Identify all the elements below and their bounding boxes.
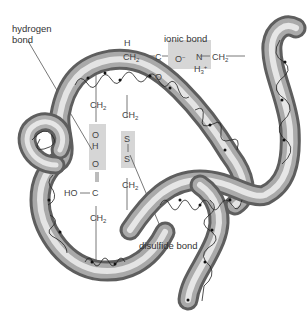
chem-ionic-n: N [196,52,203,62]
chem-top-c: C [155,52,162,62]
chem-hbond-h: H [92,141,99,151]
chem-top-o: O [155,72,162,82]
chem-top-h: H [124,38,131,48]
chem-hbond-ch2: CH2 [90,100,106,113]
chem-ss-s1: S [124,134,130,144]
disulfide-bond-label: disulfide bond [139,240,198,251]
chem-ss-s2: S [124,154,130,164]
ionic-bond-label: ionic bond [164,33,207,44]
chem-hbond-ch2-low: CH2 [90,213,106,226]
chem-ionic-o: O− [175,52,186,64]
chem-hbond-o: O [92,130,99,140]
chem-ionic-ch2: CH2 [212,52,228,65]
hydrogen-bond-label: hydrogen bond [12,23,52,45]
chem-hbond-o2: O [92,159,99,169]
chem-hbond-ho: HO [64,188,78,198]
chem-ss-ch2-bottom: CH2 [122,180,138,193]
chem-ss-ch2-top: CH2 [122,110,138,123]
protein-ribbon-svg [0,0,308,320]
chem-ionic-h3: H3+ [194,62,207,77]
chem-top-ch2: CH2 [123,52,139,65]
chem-hbond-c: C [92,188,99,198]
